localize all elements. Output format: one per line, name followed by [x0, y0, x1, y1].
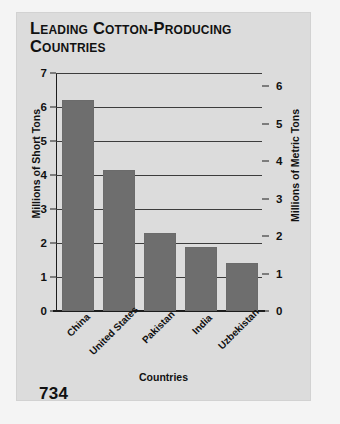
gridline: [56, 73, 262, 74]
x-tick-label: India: [190, 312, 214, 336]
y-tick-mark-right: [262, 311, 269, 312]
y-tick-mark-left: [50, 243, 56, 244]
bar: [103, 170, 135, 311]
page-background: Leading Cotton-Producing Countries Milli…: [0, 0, 340, 424]
chart-panel: Leading Cotton-Producing Countries Milli…: [17, 13, 310, 400]
x-axis-label: Countries: [17, 371, 310, 383]
plot-area: 01234567 0123456 ChinaUnited StatesPakis…: [56, 73, 262, 311]
x-tick-label: United States: [87, 304, 140, 357]
y-axis-line: [56, 73, 57, 311]
page-number: 734: [39, 384, 68, 404]
y-tick-mark-left: [50, 311, 56, 312]
chart-title: Leading Cotton-Producing Countries: [30, 20, 292, 56]
y-tick-mark-left: [50, 73, 56, 74]
y-tick-mark-right: [262, 123, 269, 124]
y-tick-mark-right: [262, 273, 269, 274]
x-tick-label: China: [64, 311, 91, 338]
y-axis-label-right: Millions of Metric Tons: [289, 109, 303, 222]
bar: [185, 247, 217, 311]
y-tick-mark-left: [50, 175, 56, 176]
bar: [62, 100, 94, 311]
y-tick-mark-right: [262, 236, 269, 237]
y-tick-mark-left: [50, 107, 56, 108]
bar: [226, 263, 258, 311]
y-tick-mark-left: [50, 141, 56, 142]
y-tick-mark-left: [50, 209, 56, 210]
y-tick-mark-right: [262, 198, 269, 199]
y-tick-mark-right: [262, 161, 269, 162]
bar: [144, 233, 176, 311]
x-tick-label: Uzbekistan: [216, 306, 261, 351]
y-tick-mark-left: [50, 277, 56, 278]
y-tick-mark-right: [262, 86, 269, 87]
x-tick-label: Pakistan: [140, 309, 177, 346]
